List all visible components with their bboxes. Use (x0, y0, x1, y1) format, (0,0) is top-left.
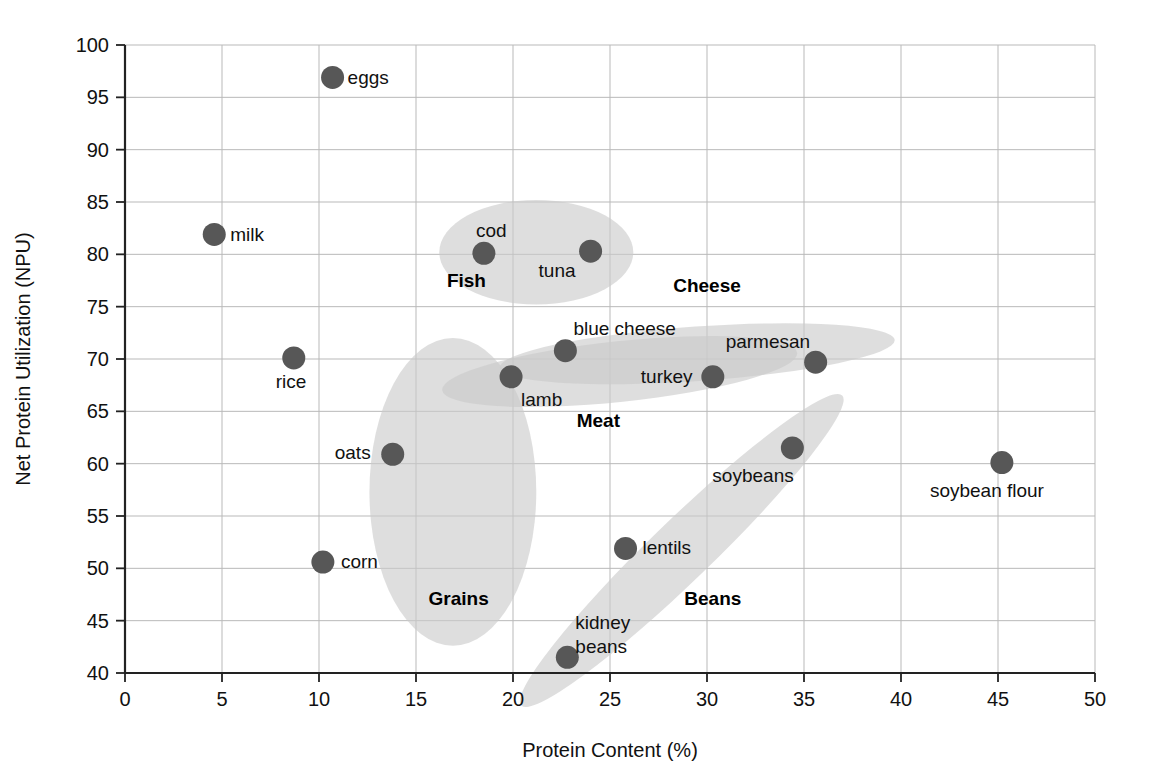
data-point-corn[interactable]: corn (311, 551, 377, 574)
point-marker (614, 537, 637, 560)
cluster-label-fish: Fish (447, 270, 486, 291)
x-tick-label: 50 (1084, 688, 1106, 710)
y-tick-label: 95 (87, 86, 109, 108)
point-marker (311, 551, 334, 574)
point-marker (804, 351, 827, 374)
x-tick-label: 45 (987, 688, 1009, 710)
point-marker (500, 365, 523, 388)
point-label: blue cheese (573, 318, 675, 339)
y-tick-label: 75 (87, 296, 109, 318)
y-axis-title: Net Protein Utilization (NPU) (12, 232, 34, 485)
point-label: tuna (539, 260, 576, 281)
x-axis-title: Protein Content (%) (522, 739, 698, 761)
x-tick-label: 5 (216, 688, 227, 710)
point-label: soybean flour (930, 480, 1045, 501)
point-marker (282, 346, 305, 369)
point-label: rice (276, 371, 307, 392)
x-tick-label: 15 (405, 688, 427, 710)
point-marker (472, 242, 495, 265)
point-label: cod (476, 220, 507, 241)
x-tick-label: 30 (696, 688, 718, 710)
point-marker (701, 365, 724, 388)
x-tick-label: 35 (793, 688, 815, 710)
chart-page: 0510152025303540455040455055606570758085… (0, 0, 1157, 783)
y-tick-label: 80 (87, 243, 109, 265)
point-label: lentils (643, 537, 692, 558)
point-marker (990, 451, 1013, 474)
cluster-label-grains: Grains (429, 588, 489, 609)
y-tick-label: 55 (87, 505, 109, 527)
data-point-oats[interactable]: oats (335, 442, 405, 466)
point-label: corn (341, 551, 378, 572)
data-point-lentils[interactable]: lentils (614, 537, 691, 560)
point-marker (554, 339, 577, 362)
point-label: parmesan (726, 331, 811, 352)
data-point-milk[interactable]: milk (203, 223, 265, 246)
scatter-chart: 0510152025303540455040455055606570758085… (0, 0, 1157, 783)
data-point-soybean-flour[interactable]: soybean flour (930, 451, 1045, 501)
y-tick-label: 40 (87, 662, 109, 684)
y-tick-label: 90 (87, 139, 109, 161)
point-marker (381, 443, 404, 466)
cluster-label-meat: Meat (577, 410, 621, 431)
point-label: oats (335, 442, 371, 463)
cluster-label-cheese: Cheese (673, 275, 741, 296)
data-point-turkey[interactable]: turkey (641, 365, 725, 388)
cluster-label-beans: Beans (684, 588, 741, 609)
y-tick-label: 65 (87, 400, 109, 422)
point-marker (781, 436, 804, 459)
x-tick-label: 25 (599, 688, 621, 710)
y-tick-label: 60 (87, 453, 109, 475)
y-tick-label: 100 (76, 34, 109, 56)
y-tick-label: 85 (87, 191, 109, 213)
point-label: lamb (521, 389, 562, 410)
point-label: soybeans (712, 465, 793, 486)
data-point-eggs[interactable]: eggs (321, 66, 389, 89)
point-marker (203, 223, 226, 246)
x-tick-label: 10 (308, 688, 330, 710)
data-point-rice[interactable]: rice (276, 346, 307, 392)
x-tick-label: 0 (119, 688, 130, 710)
point-label: milk (230, 224, 264, 245)
point-label: eggs (348, 67, 389, 88)
point-marker (579, 240, 602, 263)
point-marker (321, 66, 344, 89)
x-tick-label: 20 (502, 688, 524, 710)
y-tick-label: 70 (87, 348, 109, 370)
x-tick-label: 40 (890, 688, 912, 710)
point-label: turkey (641, 366, 693, 387)
y-tick-label: 50 (87, 557, 109, 579)
y-tick-label: 45 (87, 610, 109, 632)
